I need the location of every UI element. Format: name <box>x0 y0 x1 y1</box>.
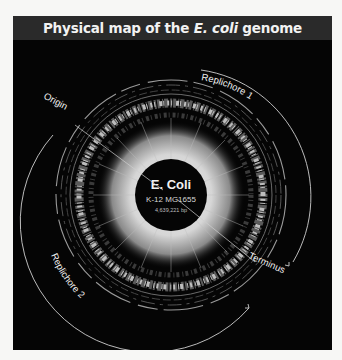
strain-label: K-12 MG1655 <box>146 195 196 204</box>
genome-map-figure: Physical map of the E. coli genome <box>13 16 332 350</box>
origin-label: Origin <box>42 90 70 112</box>
circular-genome-map: E. Coli K-12 MG1655 4,639,221 bp Origin … <box>13 40 332 350</box>
figure-title: Physical map of the E. coli genome <box>13 16 332 40</box>
genome-size-label: 4,639,221 bp <box>155 207 187 213</box>
organism-name: E. Coli <box>151 177 191 192</box>
replichore2-arrowhead-icon <box>245 304 249 308</box>
terminus-label: Terminus <box>247 250 287 276</box>
